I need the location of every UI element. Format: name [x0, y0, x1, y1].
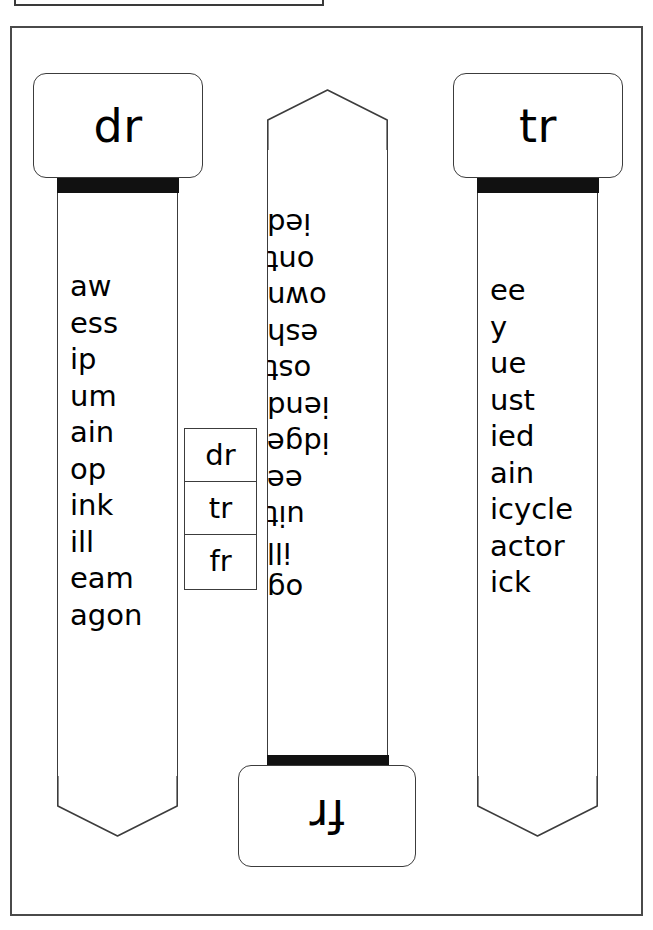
- worksheet-page: dr aw ess ip um ain op ink ill eam agon …: [0, 0, 653, 930]
- strip-label-box-tr[interactable]: tr: [453, 73, 623, 178]
- strip-tip-tr: [476, 776, 599, 838]
- list-item: ill: [267, 534, 377, 571]
- list-item: uit: [267, 497, 377, 534]
- strip-black-bar-tr: [477, 178, 599, 193]
- blend-key-box[interactable]: dr tr fr: [184, 428, 257, 590]
- key-label-fr: fr: [209, 547, 231, 576]
- list-item: og: [267, 570, 377, 607]
- list-item: icycle: [490, 491, 573, 528]
- list-item: ee: [490, 272, 573, 309]
- list-item: ill: [70, 524, 142, 561]
- strip-tip-fr: [266, 88, 389, 150]
- strip-label-text-fr: fr: [309, 793, 345, 839]
- list-item: ost: [267, 351, 377, 388]
- list-item: iend: [267, 388, 377, 425]
- list-item: ip: [70, 341, 142, 378]
- word-list-dr: aw ess ip um ain op ink ill eam agon: [70, 268, 142, 633]
- list-item: ess: [70, 305, 142, 342]
- key-row-tr[interactable]: tr: [185, 482, 256, 535]
- key-label-dr: dr: [205, 441, 235, 470]
- strip-label-box-fr[interactable]: fr: [238, 765, 416, 867]
- list-item: y: [490, 309, 573, 346]
- word-list-fr: ied ont own esh ost iend idge ee uit ill…: [267, 205, 377, 607]
- list-item: ick: [490, 564, 573, 601]
- list-item: agon: [70, 597, 142, 634]
- list-item: ain: [490, 455, 573, 492]
- list-item: esh: [267, 315, 377, 352]
- list-item: ont: [267, 242, 377, 279]
- strip-label-box-dr[interactable]: dr: [33, 73, 203, 178]
- strip-tip-dr: [56, 776, 179, 838]
- list-item: ust: [490, 382, 573, 419]
- list-item: eam: [70, 560, 142, 597]
- list-item: ied: [267, 205, 377, 242]
- list-item: aw: [70, 268, 142, 305]
- list-item: ain: [70, 414, 142, 451]
- scan-edge-fragment: [14, 0, 324, 6]
- list-item: ink: [70, 487, 142, 524]
- list-item: actor: [490, 528, 573, 565]
- key-label-tr: tr: [209, 494, 232, 523]
- word-list-tr: ee y ue ust ied ain icycle actor ick: [490, 272, 573, 601]
- list-item: um: [70, 378, 142, 415]
- key-row-fr[interactable]: fr: [185, 535, 256, 588]
- strip-black-bar-dr: [57, 178, 179, 193]
- strip-label-text-tr: tr: [519, 103, 557, 149]
- list-item: ied: [490, 418, 573, 455]
- list-item: own: [267, 278, 377, 315]
- key-row-dr[interactable]: dr: [185, 429, 256, 482]
- list-item: ee: [267, 461, 377, 498]
- list-item: op: [70, 451, 142, 488]
- list-item: idge: [267, 424, 377, 461]
- list-item: ue: [490, 345, 573, 382]
- strip-label-text-dr: dr: [93, 103, 142, 149]
